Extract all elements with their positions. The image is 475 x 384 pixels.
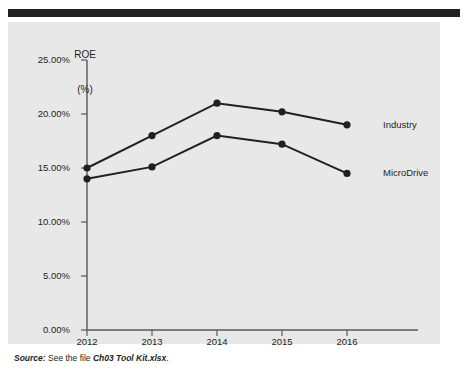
- series-label-microdrive: MicroDrive: [383, 167, 428, 178]
- source-note-file: Ch03 Tool Kit.xlsx: [93, 353, 166, 363]
- series-line-microdrive: [87, 136, 347, 179]
- x-tick-label-2012: 2012: [67, 336, 107, 347]
- y-axis-title-line2: (%): [62, 84, 108, 96]
- y-tick-label-10: 10.00%: [22, 216, 70, 227]
- source-note-period: .: [166, 353, 168, 363]
- source-note: Source: See the file Ch03 Tool Kit.xlsx.: [14, 353, 169, 363]
- y-tick-label-15: 15.00%: [22, 162, 70, 173]
- source-note-label: Source:: [14, 353, 46, 363]
- y-tick-label-25: 25.00%: [22, 54, 70, 65]
- series-label-industry: Industry: [383, 119, 417, 130]
- x-tick-label-2013: 2013: [132, 336, 172, 347]
- y-tick-label-20: 20.00%: [22, 108, 70, 119]
- y-tick-label-0: 0.00%: [22, 324, 70, 335]
- top-rule-divider: [8, 9, 460, 17]
- figure-container: ROE (%) 25.00% 20.00% 15.00% 10.00% 5.00…: [0, 0, 475, 384]
- y-axis-title: ROE (%): [62, 26, 108, 118]
- x-tick-label-2014: 2014: [197, 336, 237, 347]
- x-tick-label-2016: 2016: [327, 336, 367, 347]
- x-tick-label-2015: 2015: [262, 336, 302, 347]
- y-tick-label-5: 5.00%: [22, 270, 70, 281]
- source-note-text: See the file: [46, 353, 93, 363]
